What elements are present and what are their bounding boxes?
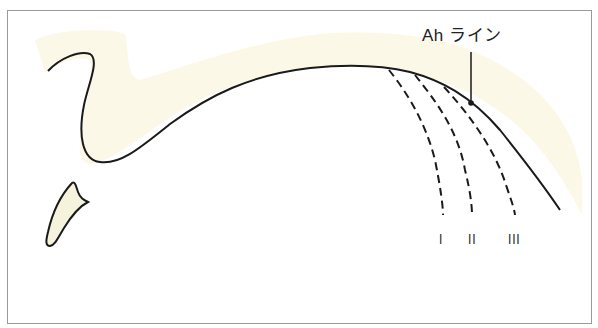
small-shape <box>46 183 88 246</box>
leader-dot <box>468 100 474 106</box>
dashed-label-I: I <box>439 230 443 247</box>
dashed-line-I <box>389 70 443 215</box>
dashed-label-II: II <box>468 230 476 247</box>
dashed-label-III: III <box>508 230 520 247</box>
shaded-band <box>35 30 582 215</box>
ah-line-label: Ah ライン <box>422 21 502 46</box>
diagram-canvas <box>0 0 598 328</box>
